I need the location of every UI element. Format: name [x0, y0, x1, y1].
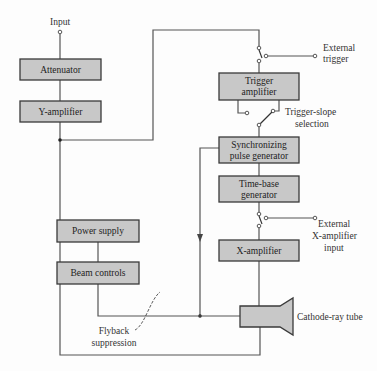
external-x-label: input	[324, 243, 344, 253]
external-x-label: X-amplifier	[312, 231, 358, 241]
slope-switch-blade	[260, 112, 272, 124]
input-label: Input	[50, 17, 70, 27]
switch-terminal	[257, 123, 261, 127]
y-amplifier-block: Y-amplifier	[20, 101, 101, 122]
switch-terminal	[245, 111, 249, 115]
flyback-label: Flyback	[99, 326, 130, 336]
trigger-amplifier-block: Trigger amplifier	[219, 73, 299, 100]
junction-dot	[58, 138, 62, 142]
beam-controls-block: Beam controls	[57, 262, 139, 284]
switch-terminal	[257, 224, 261, 228]
svg-text:amplifier: amplifier	[242, 87, 278, 97]
external-trigger-label: trigger	[323, 54, 349, 64]
external-x-label: External	[318, 219, 351, 229]
trigger-slope-label: Trigger-slope	[285, 107, 336, 117]
crt-label: Cathode-ray tube	[297, 312, 363, 322]
arrow-down-icon	[197, 234, 203, 242]
svg-text:Power supply: Power supply	[72, 226, 124, 236]
svg-text:generator: generator	[241, 190, 278, 200]
svg-text:X-amplifier: X-amplifier	[237, 246, 283, 256]
wire-beam-crt	[98, 284, 240, 316]
cathode-ray-tube	[240, 298, 293, 335]
wire-flyback	[200, 148, 219, 316]
flyback-label: suppression	[92, 338, 137, 348]
flyback-pointer	[135, 292, 160, 330]
input-terminal[interactable]	[58, 30, 62, 34]
svg-text:Attenuator: Attenuator	[40, 65, 81, 75]
switch-terminal	[257, 46, 261, 50]
external-trigger-terminal[interactable]	[313, 54, 317, 58]
switch-terminal	[264, 216, 268, 220]
svg-text:pulse generator: pulse generator	[230, 151, 289, 161]
x-amplifier-block: X-amplifier	[219, 240, 299, 261]
oscilloscope-block-diagram: Attenuator Y-amplifier Trigger amplifier…	[0, 0, 377, 371]
sync-pulse-generator-block: Synchronizing pulse generator	[219, 137, 299, 163]
switch-blade	[259, 50, 262, 58]
trigger-slope-label: selection	[295, 119, 329, 129]
switch-terminal	[264, 54, 268, 58]
wire-slope-left	[238, 100, 245, 113]
power-supply-block: Power supply	[57, 220, 139, 242]
time-base-generator-block: Time-base generator	[219, 176, 299, 202]
crt-shape	[240, 298, 293, 335]
diagram-svg: Attenuator Y-amplifier Trigger amplifier…	[0, 0, 377, 371]
switch-terminal	[257, 212, 261, 216]
svg-text:Synchronizing: Synchronizing	[231, 140, 287, 150]
external-x-terminal[interactable]	[313, 216, 317, 220]
switch-blade	[259, 216, 262, 224]
wire-slope-right	[275, 100, 279, 111]
svg-text:Beam controls: Beam controls	[70, 268, 125, 278]
svg-text:Time-base: Time-base	[239, 179, 279, 189]
svg-text:Trigger: Trigger	[245, 76, 274, 86]
switch-terminal	[257, 59, 261, 63]
external-trigger-label: External	[323, 43, 356, 53]
attenuator-block: Attenuator	[20, 59, 101, 80]
svg-text:Y-amplifier: Y-amplifier	[39, 107, 84, 117]
